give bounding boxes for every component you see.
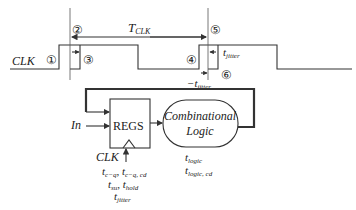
logic-param-contamination: tlogic, cd xyxy=(185,164,213,178)
clk-input-label: CLK xyxy=(96,150,120,164)
register-param-jitter: tjitter xyxy=(114,190,131,204)
register-param-setup-hold: tsu, thold xyxy=(108,178,139,192)
logic-label-line2: Logic xyxy=(185,124,214,138)
clk-waveform xyxy=(10,45,352,69)
marker-2: ② xyxy=(72,23,83,37)
register-param-clk-q: tc−q, tc−q, cd xyxy=(102,165,147,179)
clock-input-triangle-icon xyxy=(123,140,135,148)
marker-3: ③ xyxy=(83,53,94,67)
register-label: REGS xyxy=(113,119,144,133)
clk-waveform-label: CLK xyxy=(12,54,36,68)
marker-5: ⑤ xyxy=(210,23,221,37)
period-label: TCLK xyxy=(128,20,151,36)
logic-label-line1: Combinational xyxy=(164,109,237,123)
logic-param-delay: tlogic xyxy=(185,151,203,165)
marker-4: ④ xyxy=(186,53,197,67)
jitter-plus-label: tjitter xyxy=(223,46,240,60)
clock-timing-diagram: TCLK CLK ① ② ③ ④ ⑤ ⑥ tjitter −tjitter In… xyxy=(0,0,356,210)
marker-6: ⑥ xyxy=(221,68,232,82)
marker-1: ① xyxy=(46,53,57,67)
input-label: In xyxy=(70,118,81,132)
